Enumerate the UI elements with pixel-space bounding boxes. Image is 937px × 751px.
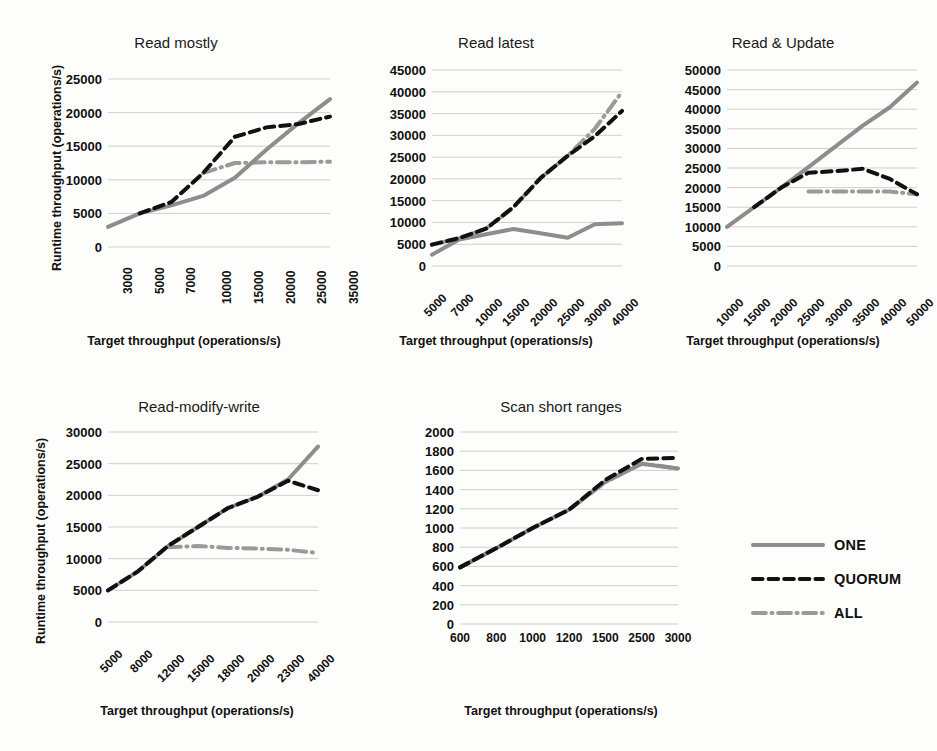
y-axis-tick: 0 [447, 617, 454, 632]
x-axis-tick: 25000 [795, 296, 828, 329]
y-axis-tick: 30000 [390, 128, 426, 143]
y-axis-tick: 15000 [66, 139, 102, 154]
y-axis-tick: 25000 [66, 72, 102, 87]
x-axis-tick: 50000 [903, 296, 936, 329]
y-axis-tick: 1400 [425, 482, 454, 497]
y-axis-tick: 1200 [425, 501, 454, 516]
chart-title: Read-modify-write [34, 398, 364, 415]
chart-title: Read latest [346, 34, 646, 51]
y-axis-tick: 10000 [66, 172, 102, 187]
y-axis-tick: 5000 [73, 206, 102, 221]
series-line-all [808, 192, 917, 195]
x-axis-tick: 20000 [244, 652, 277, 685]
legend-swatch-quorum [752, 573, 824, 585]
chart-panel-read-latest: Read latest 0500010000150002000025000300… [340, 26, 640, 356]
chart-title: Read & Update [633, 34, 933, 51]
x-axis-tick: 23000 [274, 652, 307, 685]
chart-title: Read mostly [26, 34, 326, 51]
x-axis-tick: 8000 [127, 647, 156, 676]
plot-area: 0500010000150002000025000300005000800012… [108, 432, 318, 622]
legend-item-all[interactable]: ALL [752, 596, 922, 630]
chart-svg [460, 432, 678, 624]
y-axis-tick: 20000 [390, 171, 426, 186]
series-line-quorum [108, 481, 318, 591]
x-axis-tick: 35000 [849, 296, 882, 329]
y-axis-tick: 0 [95, 240, 102, 255]
y-axis-tick: 1000 [425, 521, 454, 536]
x-axis-tick: 7000 [448, 291, 477, 320]
y-axis-tick: 40000 [390, 84, 426, 99]
x-axis-tick: 800 [486, 631, 506, 645]
y-axis-tick: 0 [714, 259, 721, 274]
x-axis-tick: 5000 [97, 647, 126, 676]
y-axis-tick: 35000 [390, 106, 426, 121]
x-axis-tick: 3000 [665, 631, 692, 645]
x-axis-tick: 15000 [184, 652, 217, 685]
y-axis-tick: 45000 [390, 63, 426, 78]
x-axis-tick: 15000 [500, 296, 533, 329]
y-axis-tick: 5000 [73, 583, 102, 598]
y-axis-label: Runtime throughput (operations/s) [34, 438, 48, 644]
legend-swatch-one [752, 539, 824, 551]
x-axis-tick: 20000 [527, 296, 560, 329]
x-axis-label: Target throughput (operations/s) [633, 334, 933, 348]
x-axis-tick: 25000 [554, 296, 587, 329]
y-axis-tick: 10000 [390, 215, 426, 230]
legend-item-one[interactable]: ONE [752, 528, 922, 562]
x-axis-tick: 18000 [214, 652, 247, 685]
legend: ONE QUORUM ALL [752, 528, 922, 630]
legend-label-quorum: QUORUM [834, 571, 901, 587]
x-axis-tick: 15000 [252, 271, 266, 304]
y-axis-tick: 15000 [685, 200, 721, 215]
x-axis-tick: 3000 [121, 267, 135, 294]
x-axis-tick: 12000 [154, 652, 187, 685]
chart-panel-read-modify-write: Read-modify-write Runtime throughput (op… [22, 392, 352, 742]
y-axis-tick: 5000 [692, 239, 721, 254]
y-axis-tick: 800 [432, 540, 454, 555]
x-axis-tick: 1500 [592, 631, 619, 645]
x-axis-label: Target throughput (operations/s) [396, 704, 726, 718]
y-axis-tick: 30000 [66, 425, 102, 440]
y-axis-tick: 0 [419, 259, 426, 274]
x-axis-label: Target throughput (operations/s) [346, 334, 646, 348]
y-axis-tick: 30000 [685, 141, 721, 156]
y-axis-tick: 25000 [685, 161, 721, 176]
y-axis-tick: 20000 [66, 105, 102, 120]
x-axis-tick: 25000 [315, 271, 329, 304]
y-axis-tick: 25000 [66, 456, 102, 471]
x-axis-tick: 30000 [581, 296, 614, 329]
legend-swatch-all [752, 607, 824, 619]
x-axis-tick: 10000 [220, 271, 234, 304]
legend-item-quorum[interactable]: QUORUM [752, 562, 922, 596]
x-axis-tick: 5000 [421, 291, 450, 320]
chart-title: Scan short ranges [396, 398, 726, 415]
y-axis-tick: 0 [95, 615, 102, 630]
y-axis-tick: 1800 [425, 444, 454, 459]
chart-svg [108, 79, 330, 247]
x-axis-tick: 20000 [767, 296, 800, 329]
y-axis-tick: 50000 [685, 63, 721, 78]
plot-area: 0500010000150002000025000300003500040000… [727, 70, 917, 266]
legend-label-all: ALL [834, 605, 863, 621]
legend-label-one: ONE [834, 537, 866, 553]
chart-svg [432, 70, 622, 266]
chart-panel-read-mostly: Read mostly Runtime throughput (operatio… [40, 26, 340, 356]
y-axis-tick: 35000 [685, 121, 721, 136]
x-axis-tick: 40000 [876, 296, 909, 329]
x-axis-label: Target throughput (operations/s) [34, 334, 334, 348]
y-axis-label: Runtime throughput (operations/s) [50, 65, 64, 271]
y-axis-tick: 40000 [685, 102, 721, 117]
x-axis-tick: 600 [450, 631, 470, 645]
y-axis-tick: 2000 [425, 425, 454, 440]
x-axis-tick: 1200 [556, 631, 583, 645]
series-line-quorum [460, 458, 678, 567]
chart-svg [108, 432, 318, 622]
x-axis-tick: 10000 [472, 296, 505, 329]
y-axis-tick: 20000 [685, 180, 721, 195]
x-axis-tick: 5000 [153, 267, 167, 294]
x-axis-tick: 10000 [713, 296, 746, 329]
y-axis-tick: 10000 [685, 219, 721, 234]
series-line-all [432, 92, 622, 245]
x-axis-tick: 30000 [822, 296, 855, 329]
y-axis-tick: 5000 [397, 237, 426, 252]
